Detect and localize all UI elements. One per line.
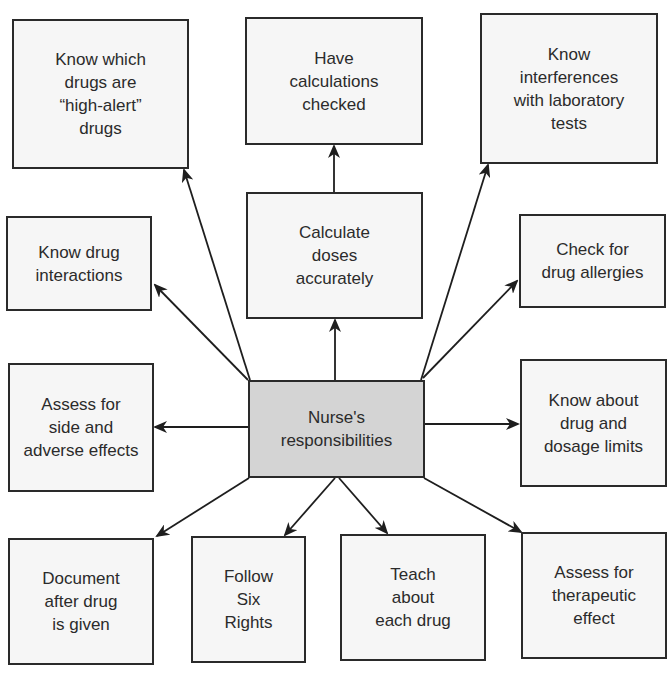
arrow-to-interactions xyxy=(155,285,248,380)
arrow-to-document xyxy=(157,478,249,536)
node-calculate-doses: Calculate doses accurately xyxy=(246,192,423,319)
node-document-after-drug: Document after drug is given xyxy=(8,538,154,665)
node-nurses-responsibilities: Nurse's responsibilities xyxy=(248,380,425,478)
arrow-to-therapeutic xyxy=(424,478,521,532)
node-side-adverse-effects: Assess for side and adverse effects xyxy=(8,363,154,492)
node-lab-interferences: Know interferences with laboratory tests xyxy=(480,13,658,164)
node-calculations-checked: Have calculations checked xyxy=(245,17,423,145)
arrow-to-six-rights xyxy=(285,478,335,535)
arrow-to-teach xyxy=(339,478,387,533)
node-six-rights: Follow Six Rights xyxy=(191,536,306,663)
node-dosage-limits: Know about drug and dosage limits xyxy=(520,359,667,487)
node-teach-each-drug: Teach about each drug xyxy=(340,534,486,661)
node-high-alert-drugs: Know which drugs are “high-alert” drugs xyxy=(12,19,189,169)
node-drug-interactions: Know drug interactions xyxy=(6,216,152,311)
arrow-to-lab-interference xyxy=(421,165,488,380)
node-therapeutic-effect: Assess for therapeutic effect xyxy=(521,532,667,659)
node-drug-allergies: Check for drug allergies xyxy=(519,214,666,308)
concept-map: Know which drugs are “high-alert” drugs … xyxy=(0,0,671,673)
